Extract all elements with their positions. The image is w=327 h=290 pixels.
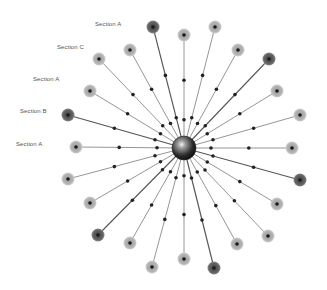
spoke-line: [76, 147, 184, 148]
spoke-dot: [238, 112, 242, 116]
node-dark: [263, 53, 276, 66]
node-light: [124, 44, 137, 57]
node-light: [294, 109, 307, 122]
node-light: [178, 253, 191, 266]
spoke-dot: [182, 118, 186, 122]
spoke-dot: [126, 112, 130, 116]
spoke-dot: [215, 87, 219, 91]
spoke-dot: [203, 168, 207, 172]
spoke-dot: [195, 170, 199, 174]
spoke-line: [184, 148, 277, 204]
node-light: [93, 53, 106, 66]
spoke-dot: [113, 126, 117, 130]
spoke-dot: [209, 146, 213, 150]
node-dark: [92, 229, 105, 242]
spoke-line: [68, 148, 184, 179]
node-light: [209, 21, 222, 34]
section-label: Section A: [33, 76, 59, 82]
node-light: [146, 261, 159, 274]
spoke-dot: [174, 176, 178, 180]
spoke-dot: [182, 78, 186, 82]
node-light: [232, 44, 245, 57]
node-light: [262, 230, 275, 243]
spoke-dot: [131, 198, 135, 202]
node-light: [70, 141, 83, 154]
spoke-dot: [113, 165, 117, 169]
spoke-line: [68, 115, 184, 148]
spoke-dot: [150, 87, 154, 91]
node-light: [84, 85, 97, 98]
spoke-line: [130, 148, 184, 243]
spoke-line: [184, 27, 215, 148]
spoke-line: [184, 148, 268, 236]
spoke-dot: [126, 179, 130, 183]
spoke-dot: [233, 199, 237, 203]
spoke-dot: [150, 203, 154, 207]
node-light: [271, 198, 284, 211]
node-light: [124, 237, 137, 250]
spoke-dot: [252, 165, 256, 169]
spoke-dot: [190, 116, 194, 120]
spoke-line: [184, 148, 214, 268]
spoke-dot: [247, 146, 251, 150]
spoke-line: [184, 148, 300, 180]
spoke-dot: [214, 204, 218, 208]
spoke-line: [184, 50, 238, 148]
spoke-dot: [169, 122, 173, 126]
spoke-dot: [205, 160, 209, 164]
spoke-dot: [182, 174, 186, 178]
spoke-dot: [131, 93, 135, 97]
spoke-dot: [161, 168, 165, 172]
spoke-line: [90, 148, 184, 203]
spoke-dot: [252, 126, 256, 130]
node-light: [231, 238, 244, 251]
node-dark: [294, 174, 307, 187]
spoke-line: [153, 27, 184, 148]
spoke-dot: [163, 218, 167, 222]
section-label: Section A: [95, 21, 121, 27]
spoke-dot: [153, 154, 157, 158]
section-label: Section A: [16, 141, 42, 147]
spoke-dot: [196, 122, 200, 126]
spoke-line: [90, 91, 184, 148]
spoke-line: [184, 115, 300, 148]
node-light: [84, 197, 97, 210]
spoke-dot: [211, 154, 215, 158]
spoke-line: [130, 50, 184, 148]
spoke-dot: [233, 93, 237, 97]
spoke-dot: [201, 74, 205, 78]
spoke-dot: [159, 132, 163, 136]
node-light: [286, 142, 299, 155]
section-label: Section C: [57, 44, 84, 50]
center-hub: [172, 136, 196, 160]
node-light: [271, 85, 284, 98]
node-dark: [147, 21, 160, 34]
node-light: [178, 29, 191, 42]
spoke-dot: [182, 213, 186, 217]
spoke-line: [184, 148, 237, 244]
spoke-dot: [238, 180, 242, 184]
radial-diagram: [0, 0, 327, 290]
spoke-dot: [155, 146, 159, 150]
section-label: Section B: [20, 108, 47, 114]
spoke-dot: [211, 138, 215, 142]
node-dark: [62, 109, 75, 122]
spoke-dot: [169, 170, 173, 174]
spoke-dot: [153, 138, 157, 142]
spoke-dot: [161, 124, 165, 128]
node-dark: [208, 262, 221, 275]
spoke-dot: [117, 146, 121, 150]
spoke-line: [152, 148, 184, 267]
spoke-dot: [203, 124, 207, 128]
spoke-dot: [205, 132, 209, 136]
spoke-line: [99, 59, 184, 148]
spoke-dot: [190, 176, 194, 180]
node-light: [62, 173, 75, 186]
spoke-dot: [164, 74, 168, 78]
spoke-dot: [174, 116, 178, 120]
spoke-dot: [159, 160, 163, 164]
spoke-dot: [200, 218, 204, 222]
spoke-line: [98, 148, 184, 235]
